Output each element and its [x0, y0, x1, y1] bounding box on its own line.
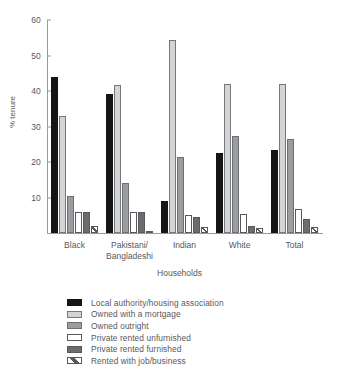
bar [271, 150, 278, 233]
x-tick-label: Black [47, 240, 102, 251]
light-gray-swatch [67, 311, 82, 318]
x-axis-line [47, 233, 323, 234]
bar [248, 226, 255, 233]
bar-group [161, 20, 208, 233]
y-tick-label-40: 40 [31, 86, 47, 96]
white-swatch [67, 334, 82, 341]
bar [59, 116, 66, 233]
x-axis-title: Households [0, 268, 359, 278]
bar-group [271, 20, 318, 233]
bar [287, 139, 294, 233]
bar [216, 153, 223, 233]
bar [177, 157, 184, 233]
x-tick-label: White [212, 240, 267, 251]
x-tick-label: Pakistani/ Bangladeshi [102, 240, 157, 262]
legend-item: Rented with job/business [67, 355, 224, 367]
legend-item-label: Owned outright [91, 321, 149, 331]
legend-item: Owned with a mortgage [67, 309, 224, 321]
y-axis-title: % tenure [8, 96, 17, 128]
legend-item-label: Local authority/housing association [91, 298, 224, 308]
bar [201, 227, 208, 233]
bar [169, 40, 176, 233]
bar [224, 84, 231, 233]
bar [279, 84, 286, 233]
bar [114, 85, 121, 233]
bar [106, 94, 113, 234]
bar-group [106, 20, 153, 233]
bar [75, 212, 82, 233]
y-tick-label-60: 60 [31, 15, 47, 25]
legend-item: Private rented furnished [67, 343, 224, 355]
bar-group [216, 20, 263, 233]
hatched-swatch [67, 357, 82, 364]
bar [146, 231, 153, 233]
bar [232, 136, 239, 233]
bar [240, 214, 247, 233]
y-tick-label-20: 20 [31, 157, 47, 167]
legend-item-label: Rented with job/business [91, 356, 186, 366]
x-tick-label: Indian [157, 240, 212, 251]
bar [185, 215, 192, 233]
chart-legend: Local authority/housing associationOwned… [67, 297, 224, 367]
bar [311, 227, 318, 233]
bar [67, 196, 74, 233]
plot-area: 102030405060 [47, 20, 322, 233]
legend-item: Owned outright [67, 320, 224, 332]
y-tick-label-50: 50 [31, 51, 47, 61]
bar [122, 183, 129, 233]
y-tick-label-10: 10 [31, 193, 47, 203]
grouped-bar-chart: % tenure 102030405060 BlackPakistani/ Ba… [0, 0, 359, 380]
bar [83, 212, 90, 233]
bar [51, 77, 58, 233]
bar [138, 212, 145, 233]
bar [256, 228, 263, 233]
legend-item-label: Private rented furnished [91, 344, 182, 354]
bar [130, 212, 137, 233]
bar [161, 201, 168, 233]
legend-item: Local authority/housing association [67, 297, 224, 309]
y-tick-label-30: 30 [31, 122, 47, 132]
bar [91, 226, 98, 233]
bar-group [51, 20, 98, 233]
bar [193, 217, 200, 233]
x-tick-label: Total [267, 240, 322, 251]
legend-item-label: Owned with a mortgage [91, 309, 181, 319]
legend-item: Private rented unfurnished [67, 332, 224, 344]
solid-black-swatch [67, 299, 82, 306]
dark-gray-swatch [67, 346, 82, 353]
bar [303, 219, 310, 233]
bar [295, 209, 302, 233]
medium-gray-swatch [67, 322, 82, 329]
legend-item-label: Private rented unfurnished [91, 333, 191, 343]
